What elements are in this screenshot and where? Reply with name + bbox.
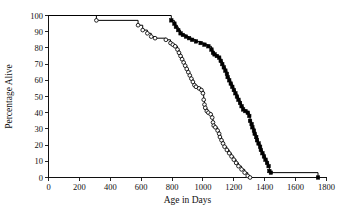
data-point-filled-square [257, 142, 261, 146]
data-point-filled-square [194, 40, 198, 44]
y-tick-label: 50 [35, 92, 44, 102]
data-point-filled-square [259, 148, 263, 152]
x-tick-label: 400 [104, 182, 117, 192]
x-tick-label: 600 [135, 182, 148, 192]
data-point-open-circle [95, 19, 99, 23]
survival-curve-figure: 0200400600800100012001400160018000102030… [0, 0, 343, 214]
data-point-filled-square [226, 75, 230, 79]
y-tick-label: 20 [35, 140, 44, 150]
data-point-filled-square [173, 22, 177, 26]
series-line-2 [49, 16, 319, 178]
y-tick-label: 90 [35, 27, 44, 37]
data-point-filled-square [217, 56, 221, 60]
data-point-filled-square [170, 19, 174, 23]
data-point-filled-square [246, 111, 250, 115]
y-tick-label: 0 [39, 173, 43, 183]
data-point-open-circle [201, 91, 205, 95]
data-point-filled-square [240, 104, 244, 108]
data-point-filled-square [176, 28, 180, 32]
data-point-filled-square [174, 25, 178, 29]
data-point-filled-square [254, 135, 258, 139]
data-point-filled-square [190, 38, 194, 42]
x-tick-label: 1800 [318, 182, 335, 192]
data-point-open-circle [164, 38, 168, 42]
data-point-filled-square [221, 62, 225, 66]
data-point-filled-square [264, 158, 268, 162]
data-point-filled-square [210, 48, 214, 52]
x-tick-label: 200 [73, 182, 86, 192]
data-point-filled-square [199, 41, 203, 45]
data-point-open-circle [248, 176, 252, 180]
x-tick-label: 0 [46, 182, 50, 192]
data-point-filled-square [255, 138, 259, 142]
data-point-filled-square [207, 45, 211, 49]
data-point-open-circle [141, 28, 145, 32]
data-point-open-circle [243, 171, 247, 175]
data-point-filled-square [261, 151, 265, 155]
data-point-filled-square [269, 171, 273, 175]
data-point-open-circle [149, 35, 153, 39]
data-point-filled-square [235, 95, 239, 99]
data-point-filled-square [219, 59, 223, 63]
data-point-filled-square [234, 92, 238, 96]
data-point-filled-square [225, 72, 229, 76]
data-point-open-circle [240, 168, 244, 172]
data-point-filled-square [227, 79, 231, 83]
x-tick-label: 1000 [194, 182, 211, 192]
y-tick-label: 80 [35, 43, 44, 53]
data-point-filled-square [316, 176, 320, 180]
x-axis-title: Age in Days [164, 195, 212, 205]
axes-group [45, 16, 326, 181]
data-point-filled-square [251, 126, 255, 130]
data-point-open-circle [202, 98, 206, 102]
data-point-filled-square [248, 119, 252, 123]
data-point-filled-square [203, 43, 207, 47]
x-tick-label: 1400 [256, 182, 273, 192]
data-point-filled-square [237, 98, 241, 102]
series-2 [49, 16, 320, 180]
y-tick-label: 100 [30, 11, 43, 21]
data-point-filled-square [232, 88, 236, 92]
data-point-filled-square [222, 66, 226, 70]
data-point-filled-square [224, 69, 228, 73]
y-tick-label: 40 [35, 108, 44, 118]
series-group [49, 16, 320, 180]
data-point-open-circle [153, 36, 157, 40]
data-point-filled-square [267, 164, 271, 168]
x-tick-label: 1200 [225, 182, 242, 192]
data-point-filled-square [262, 155, 266, 159]
y-tick-label: 10 [35, 156, 44, 166]
y-axis-title: Percentage Alive [4, 64, 14, 129]
data-point-filled-square [229, 82, 233, 86]
data-point-filled-square [253, 132, 257, 136]
x-tick-label: 800 [166, 182, 179, 192]
data-point-open-circle [237, 164, 241, 168]
data-point-filled-square [231, 85, 235, 89]
data-point-open-circle [136, 23, 140, 27]
data-point-filled-square [250, 122, 254, 126]
y-tick-label: 60 [35, 75, 44, 85]
series-line-1 [49, 16, 251, 178]
series-1 [49, 16, 252, 180]
data-point-open-circle [210, 116, 214, 120]
data-point-filled-square [265, 161, 269, 165]
data-point-filled-square [252, 129, 256, 133]
y-tick-label: 30 [35, 124, 44, 134]
y-tick-label: 70 [35, 59, 44, 69]
data-point-open-circle [145, 31, 149, 35]
survival-plot: 0200400600800100012001400160018000102030… [0, 0, 343, 214]
data-point-filled-square [238, 101, 242, 105]
x-tick-label: 1600 [287, 182, 304, 192]
data-point-filled-square [248, 114, 252, 118]
data-point-filled-square [258, 145, 262, 149]
